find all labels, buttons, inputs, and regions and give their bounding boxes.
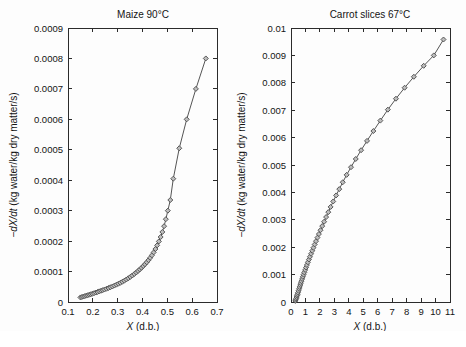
maize-chart-svg: Maize 90°C 0.10.20.30.40.50.60.700.00010… bbox=[0, 0, 233, 347]
data-point-marker bbox=[163, 217, 168, 222]
x-tick-label: 0.7 bbox=[210, 306, 223, 317]
x-tick-label: 0.2 bbox=[86, 306, 99, 317]
y-tick-label: 0.0001 bbox=[34, 266, 63, 277]
data-point-marker bbox=[348, 165, 353, 170]
x-tick-label: 0.6 bbox=[186, 306, 199, 317]
data-point-marker bbox=[168, 198, 173, 203]
x-tick-label: 3 bbox=[332, 306, 337, 317]
y-axis-label-carrot: −dX/dt (kg water/kg dry matter/s) bbox=[236, 92, 247, 237]
x-tick-label: 8 bbox=[404, 306, 409, 317]
y-tick-label: 0.0006 bbox=[34, 114, 63, 125]
y-tick-label: 0.0008 bbox=[34, 53, 63, 64]
maize-axes bbox=[68, 28, 217, 302]
data-point-marker bbox=[177, 146, 182, 151]
plot-box bbox=[291, 28, 450, 302]
figure-container: Maize 90°C 0.10.20.30.40.50.60.700.00010… bbox=[0, 0, 466, 347]
data-point-marker bbox=[344, 172, 349, 177]
y-tick-label: 0.006 bbox=[262, 132, 286, 143]
chart-title-maize: Maize 90°C bbox=[117, 9, 169, 20]
x-tick-label: 0.5 bbox=[161, 306, 174, 317]
data-point-marker bbox=[340, 180, 345, 185]
y-tick-label: 0.001 bbox=[262, 269, 286, 280]
carrot-data-markers bbox=[293, 37, 446, 303]
plot-box bbox=[68, 28, 217, 302]
x-tick-label: 6 bbox=[375, 306, 380, 317]
data-point-marker bbox=[326, 210, 331, 215]
maize-data-markers bbox=[78, 56, 208, 300]
maize-tick-labels: 0.10.20.30.40.50.60.700.00010.00020.0003… bbox=[34, 23, 224, 318]
data-point-marker bbox=[203, 56, 208, 61]
x-tick-label: 9 bbox=[418, 306, 423, 317]
y-tick-label: 0.004 bbox=[262, 187, 286, 198]
carrot-data-line bbox=[295, 40, 443, 301]
x-tick-label: 7 bbox=[390, 306, 395, 317]
y-tick-label: 0 bbox=[281, 297, 286, 308]
y-tick-label: 0.0004 bbox=[34, 175, 63, 186]
y-tick-label: 0.0007 bbox=[34, 83, 63, 94]
chart-title-carrot: Carrot slices 67°C bbox=[330, 9, 411, 20]
x-tick-label: 11 bbox=[445, 306, 455, 317]
x-tick-label: 10 bbox=[430, 306, 441, 317]
data-point-marker bbox=[162, 224, 167, 229]
x-tick-label: 4 bbox=[346, 306, 351, 317]
carrot-axes bbox=[291, 28, 450, 302]
y-tick-label: 0.003 bbox=[262, 214, 286, 225]
data-point-marker bbox=[331, 199, 336, 204]
y-tick-label: 0.0009 bbox=[34, 23, 63, 34]
data-point-marker bbox=[365, 138, 370, 143]
carrot-chart-svg: Carrot slices 67°C 0123456789101100.0010… bbox=[233, 0, 466, 347]
y-axis-label-units: (kg water/kg dry matter/s) bbox=[236, 92, 247, 208]
x-tick-label: 1 bbox=[303, 306, 308, 317]
y-tick-label: 0.0003 bbox=[34, 205, 63, 216]
data-point-marker bbox=[334, 193, 339, 198]
y-tick-label: 0.005 bbox=[262, 160, 286, 171]
maize-data-line bbox=[80, 58, 205, 297]
y-tick-label: 0.008 bbox=[262, 77, 286, 88]
x-tick-label: 5 bbox=[361, 306, 366, 317]
y-axis-label-symbol: −dX/dt bbox=[8, 207, 19, 237]
chart-panel-maize: Maize 90°C 0.10.20.30.40.50.60.700.00010… bbox=[0, 0, 233, 347]
y-tick-label: 0 bbox=[58, 297, 63, 308]
data-point-marker bbox=[165, 208, 170, 213]
data-point-marker bbox=[184, 117, 189, 122]
x-tick-label: 0.1 bbox=[61, 306, 74, 317]
data-point-marker bbox=[353, 156, 358, 161]
y-tick-label: 0.0005 bbox=[34, 144, 63, 155]
data-point-marker bbox=[324, 215, 329, 220]
data-point-marker bbox=[171, 176, 176, 181]
chart-panel-carrot: Carrot slices 67°C 0123456789101100.0010… bbox=[233, 0, 466, 347]
data-point-marker bbox=[441, 37, 446, 42]
x-tick-label: 0.4 bbox=[136, 306, 149, 317]
x-tick-label: 2 bbox=[317, 306, 322, 317]
y-tick-label: 0.01 bbox=[268, 23, 287, 34]
y-axis-label-symbol: −dX/dt bbox=[236, 207, 247, 237]
data-point-marker bbox=[160, 229, 165, 234]
data-point-marker bbox=[328, 204, 333, 209]
y-tick-label: 0.002 bbox=[262, 242, 286, 253]
x-tick-label: 0.3 bbox=[111, 306, 124, 317]
data-point-marker bbox=[193, 86, 198, 91]
y-axis-label-units: (kg water/kg dry matter/s) bbox=[8, 92, 19, 208]
data-point-marker bbox=[359, 148, 364, 153]
y-tick-label: 0.0002 bbox=[34, 236, 63, 247]
x-tick-label: 0 bbox=[288, 306, 293, 317]
y-tick-label: 0.009 bbox=[262, 50, 286, 61]
figure-bottom-margin bbox=[0, 331, 466, 347]
y-axis-label-maize: −dX/dt (kg water/kg dry matter/s) bbox=[8, 92, 19, 237]
data-point-marker bbox=[337, 187, 342, 192]
y-tick-label: 0.007 bbox=[262, 105, 286, 116]
